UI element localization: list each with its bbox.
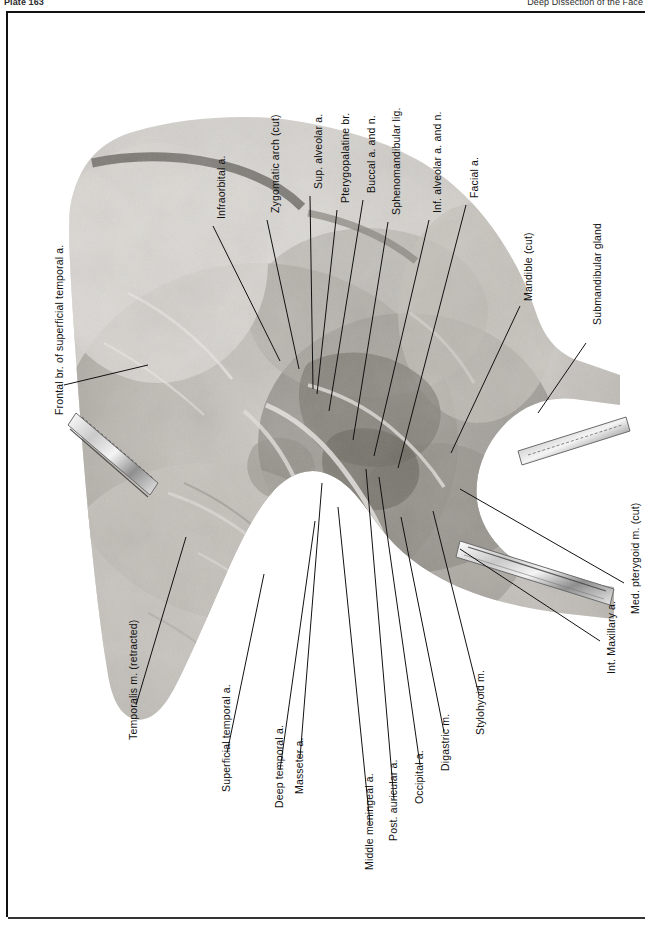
- label-sphenomandibular-lig: Sphenomandibular lig.: [391, 107, 402, 215]
- label-int-maxillary-a: Int. Maxillary a.: [606, 601, 617, 674]
- label-digastric-m: Digastric m.: [440, 714, 451, 771]
- label-stylohyoid-m: Stylohyoid m.: [475, 670, 486, 735]
- label-middle-meningeal-a: Middle meningeal a.: [364, 773, 375, 870]
- label-sup-alveolar-a: Sup. alveolar a.: [313, 114, 324, 189]
- label-occipital-a: Occipital a.: [414, 750, 425, 804]
- label-temporalis-m-retracted: Temporalis m. (retracted): [128, 620, 139, 740]
- label-inf-alveolar-a-and-n: Inf. alveolar a. and n.: [432, 111, 443, 213]
- label-deep-temporal-a: Deep temporal a.: [274, 725, 285, 808]
- label-facial-a: Facial a.: [469, 157, 480, 198]
- label-buccal-a-and-n: Buccal a. and n.: [366, 115, 377, 193]
- label-pterygopalatine-br: Pterygopalatine br.: [340, 113, 351, 203]
- plate-frame: Frontal br. of superficial temporal a.In…: [6, 11, 645, 917]
- label-submandibular-gland: Submandibular gland: [592, 223, 603, 325]
- label-zygomatic-arch-cut: Zygomatic arch (cut): [270, 114, 281, 213]
- label-mandible-cut: Mandible (cut): [523, 232, 534, 301]
- figure-stage: Frontal br. of superficial temporal a.In…: [8, 13, 647, 919]
- running-head-left: Plate 163: [4, 0, 44, 7]
- label-superficial-temporal-a: Superficial temporal a.: [221, 684, 232, 792]
- label-infraorbital-a: Infraorbital a.: [216, 155, 227, 219]
- specimen-photograph: [8, 13, 647, 919]
- label-masseter-a: Masseter a.: [294, 737, 305, 794]
- running-head-right: Deep Dissection of the Face: [527, 0, 643, 7]
- label-med-pterygoid-m-cut: Med. pterygoid m. (cut): [630, 503, 641, 614]
- label-frontal-br-sup-temporal-a: Frontal br. of superficial temporal a.: [54, 245, 65, 415]
- label-post-auricular-a: Post. auricular a.: [388, 760, 399, 842]
